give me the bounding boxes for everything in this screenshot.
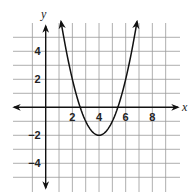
y-tick-label: −2 <box>28 129 41 141</box>
x-tick-label: 4 <box>96 111 103 123</box>
x-tick-label: 8 <box>149 111 155 123</box>
coordinate-plane: 246842−2−4 x y <box>0 0 196 194</box>
x-axis-label: x <box>181 100 188 114</box>
x-tick-label: 2 <box>69 111 75 123</box>
y-axis-label: y <box>40 7 47 21</box>
x-tick-label: 6 <box>123 111 129 123</box>
y-tick-label: −4 <box>28 157 41 169</box>
y-tick-label: 2 <box>35 73 41 85</box>
y-tick-label: 4 <box>35 45 42 57</box>
